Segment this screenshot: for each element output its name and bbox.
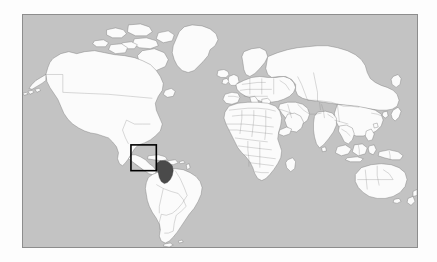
figure-root: World location map (0, 0, 437, 262)
map-border-frame (22, 14, 418, 248)
iberian-peninsula (223, 92, 240, 104)
world-basemap (23, 15, 417, 247)
taiwan (373, 123, 378, 128)
sri-lanka (321, 147, 326, 152)
